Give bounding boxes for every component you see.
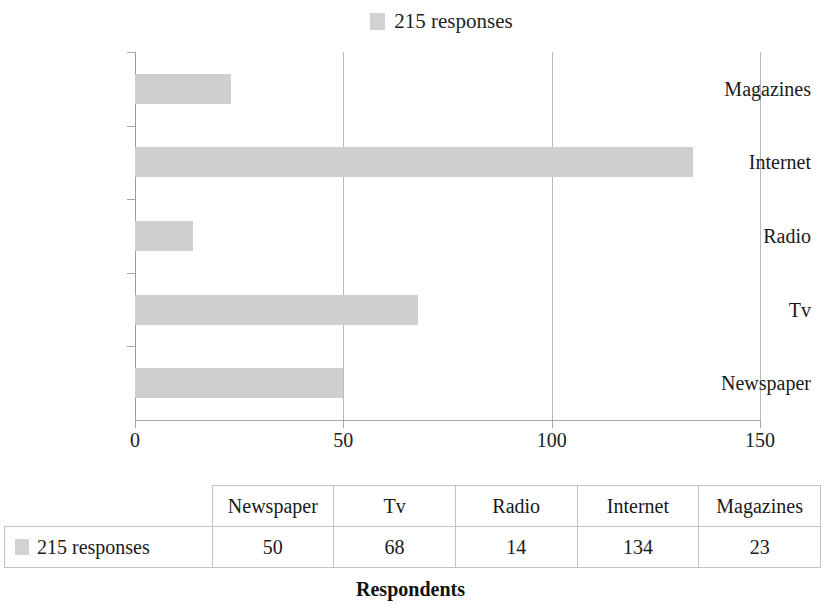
x-axis-tick [343, 420, 344, 428]
x-gridline [343, 52, 344, 420]
y-axis-category-label: Newspaper [695, 373, 821, 393]
x-axis-tick-label: 150 [745, 430, 775, 450]
y-axis-tick [127, 52, 136, 53]
y-axis-category-label: Radio [695, 226, 821, 246]
table-cell: 23 [699, 527, 821, 568]
table-column-header: Newspaper [212, 486, 334, 527]
legend-entry: 215 responses [370, 11, 512, 32]
y-axis-tick [127, 126, 136, 127]
bar-radio [135, 221, 193, 251]
x-axis-tick-label: 0 [130, 430, 140, 450]
table-column-header: Magazines [699, 486, 821, 527]
table-row-header-label: 215 responses [37, 536, 150, 559]
x-axis-tick [135, 420, 136, 428]
y-axis-category-label: Tv [695, 300, 821, 320]
legend-color-swatch-icon [370, 13, 385, 30]
table-cell: 68 [334, 527, 456, 568]
table-corner-cell [5, 486, 213, 527]
table-row: 215 responses 50 68 14 134 23 [5, 527, 821, 568]
chart-data-table: Newspaper Tv Radio Internet Magazines 21… [4, 485, 821, 568]
bar-internet [135, 147, 693, 177]
x-axis-line [135, 420, 761, 421]
x-axis-title: Respondents [0, 578, 821, 601]
plot-area [135, 52, 760, 420]
bar-magazines [135, 74, 231, 104]
table-column-header: Tv [334, 486, 456, 527]
x-axis-tick [552, 420, 553, 428]
x-gridline [552, 52, 553, 420]
x-axis-tick-label: 50 [333, 430, 353, 450]
table-cell: 134 [577, 527, 699, 568]
table-row-header: 215 responses [5, 527, 213, 568]
y-axis-tick [127, 346, 136, 347]
table-cell: 50 [212, 527, 334, 568]
y-axis-tick [127, 199, 136, 200]
chart-data-table-wrapper: Newspaper Tv Radio Internet Magazines 21… [0, 485, 821, 568]
x-axis-tick-label: 100 [537, 430, 567, 450]
x-axis-tick [760, 420, 761, 428]
table-header-row: Newspaper Tv Radio Internet Magazines [5, 486, 821, 527]
table-column-header: Internet [577, 486, 699, 527]
table-cell: 14 [455, 527, 577, 568]
y-axis-category-label: Magazines [695, 79, 821, 99]
bar-chart: 050100150NewspaperTvRadioInternetMagazin… [0, 44, 821, 464]
legend-color-swatch-icon [15, 539, 29, 555]
y-axis-category-label: Internet [695, 152, 821, 172]
chart-legend: 215 responses [0, 4, 821, 38]
bar-newspaper [135, 368, 343, 398]
legend-series-label: 215 responses [394, 11, 512, 32]
bar-tv [135, 295, 418, 325]
y-axis-tick [127, 273, 136, 274]
table-column-header: Radio [455, 486, 577, 527]
